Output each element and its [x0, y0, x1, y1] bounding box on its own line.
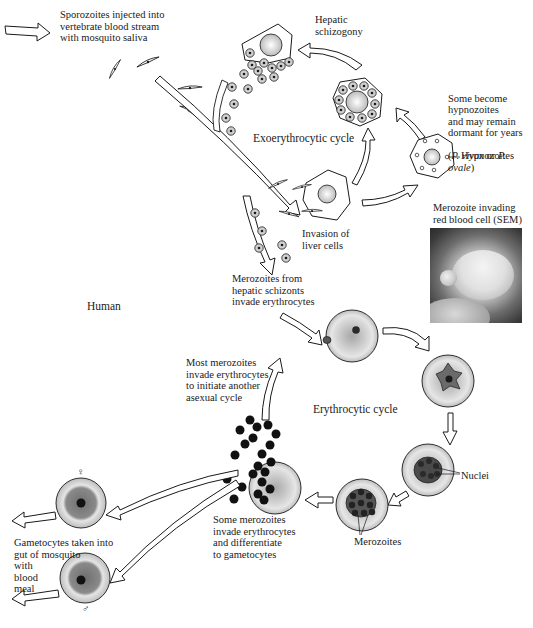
hypnozoite-arrow-icon: [362, 185, 418, 206]
exit-arrow-icon-female: [12, 512, 56, 528]
some-merozoites-label: Some merozoites invade erythrocytes and …: [213, 514, 296, 560]
entry-arrow-icon: [5, 23, 50, 41]
cycle-arrow-icon-1: [383, 328, 429, 352]
gametocytes-taken-label: Gametocytes taken into gut of mosquito w…: [14, 537, 113, 595]
merozoites-label: Merozoites: [354, 536, 401, 548]
cycle-arrow-icon-4: [305, 492, 333, 508]
sporozoites-injected-label: Sporozoites injected into vertebrate blo…: [60, 9, 164, 44]
sem-red-blood-cell: [452, 250, 514, 300]
merozoites-from-hepatic-label: Merozoites from hepatic schizonts invade…: [232, 273, 315, 308]
hepatic-schizont-icon: [333, 78, 382, 126]
most-merozoites-label: Most merozoites invade erythrocytes to i…: [186, 357, 269, 403]
invasion-arrow-icon: [280, 313, 322, 345]
sem-merozoite: [440, 270, 457, 286]
female-symbol: ♀: [77, 466, 85, 478]
erythrocytic-cycle-label: Erythrocytic cycle: [313, 404, 398, 416]
exoerythrocytic-cycle-label: Exoerythrocytic cycle: [253, 133, 354, 145]
rbc-schizont-icon: [402, 444, 460, 496]
male-symbol: ♂: [82, 603, 90, 615]
female-gametocyte-icon: [56, 478, 106, 528]
hepatic-schizogony-label: Hepatic schizogony: [315, 14, 363, 37]
hypnozoites-pointer-label: Hypnozoites: [461, 150, 514, 162]
development-arrow-icon: [352, 128, 375, 185]
rbc-mature-schizont-icon: [336, 479, 388, 535]
sem-caption-label: Merozoite invading red blood cell (SEM): [433, 202, 522, 225]
human-label: Human: [87, 301, 121, 313]
merozoite-chain-icon: [213, 80, 252, 135]
rbc-trophozoite-icon: [422, 355, 474, 407]
invasion-liver-label: Invasion of liver cells: [302, 228, 350, 251]
reactivation-arrow-icon: [396, 108, 425, 140]
sporozoites-icon: [106, 56, 206, 124]
schizogony-arrow-icon: [298, 43, 362, 70]
rbc-ring-stage-icon: [323, 310, 378, 362]
merozoite-release-arrow-icon: [243, 196, 290, 275]
sem-photo: [430, 228, 522, 323]
cycle-arrow-icon-3: [388, 491, 409, 506]
rupturing-hepatocyte-icon: [240, 24, 293, 83]
sem-rbc-background: [430, 298, 490, 323]
bloodstream-arrow-icon: [155, 76, 300, 215]
cycle-arrow-icon-2: [443, 413, 457, 445]
hypnozoites-note-text: Some become hypnozoites and may remain d…: [448, 93, 523, 139]
nuclei-label: Nuclei: [461, 470, 489, 482]
rupturing-rbc-icon: [223, 416, 302, 515]
